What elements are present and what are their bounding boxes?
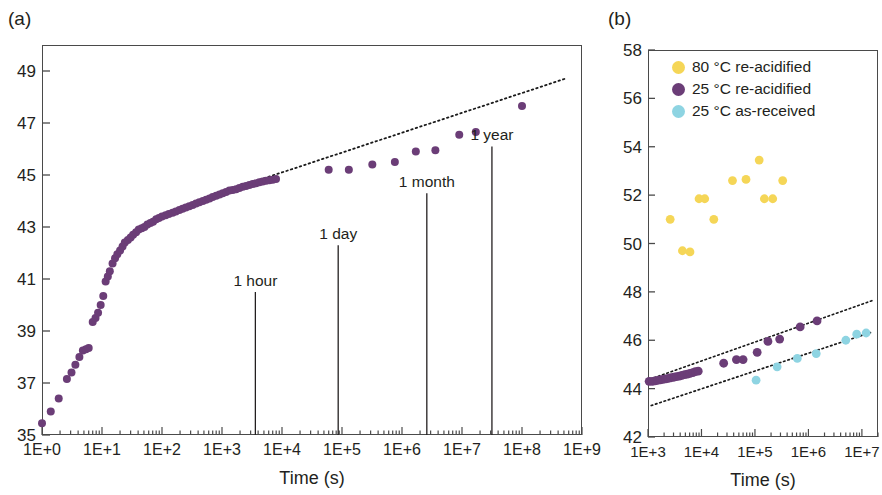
panel-a-ytick-47: 47 bbox=[0, 115, 36, 132]
panel-b-ytick-48: 48 bbox=[600, 283, 642, 300]
panel-a-ytick-43: 43 bbox=[0, 219, 36, 236]
panel-a-xtick-1E+3: 1E+3 bbox=[203, 442, 241, 458]
legend-label-1: 25 °C re-acidified bbox=[692, 81, 811, 97]
panel-a-annotation-1-hour: 1 hour bbox=[233, 272, 277, 290]
legend-swatch-icon-1 bbox=[672, 83, 685, 96]
panel-b-ytick-44: 44 bbox=[600, 380, 642, 397]
panel-b-xaxis-title: Time (s) bbox=[730, 470, 795, 491]
panel-b-legend: 80 °C re-acidified25 °C re-acidified25 °… bbox=[672, 57, 815, 121]
panel-a-ytick-39: 39 bbox=[0, 323, 36, 340]
panel-b-ytick-50: 50 bbox=[600, 235, 642, 252]
panel-a: (a) 3537394143454749 1E+01E+11E+21E+31E+… bbox=[0, 0, 600, 495]
panel-a-xtick-1E+7: 1E+7 bbox=[443, 442, 481, 458]
panel-a-xtick-1E+5: 1E+5 bbox=[323, 442, 361, 458]
panel-b-series-25-C-re-acidified bbox=[645, 317, 822, 386]
legend-swatch-icon-2 bbox=[672, 105, 685, 118]
panel-b-ytick-54: 54 bbox=[600, 138, 642, 155]
panel-b-xtick-1E+7: 1E+7 bbox=[844, 444, 879, 459]
panel-a-xaxis-title: Time (s) bbox=[279, 468, 344, 489]
panel-b: (b) 424446485052545658 1E+31E+41E+51E+61… bbox=[600, 0, 882, 495]
panel-b-series-80-C-re-acidified bbox=[666, 156, 787, 257]
panel-b-xtick-1E+6: 1E+6 bbox=[791, 444, 826, 459]
figure-root: (a) 3537394143454749 1E+01E+11E+21E+31E+… bbox=[0, 0, 882, 495]
legend-label-0: 80 °C re-acidified bbox=[692, 59, 811, 75]
panel-a-annotation-1-year: 1 year bbox=[470, 126, 513, 144]
panel-a-ytick-41: 41 bbox=[0, 271, 36, 288]
panel-a-annotation-1-month: 1 month bbox=[399, 173, 455, 191]
panel-a-xtick-1E+4: 1E+4 bbox=[263, 442, 301, 458]
panel-a-xtick-1E+1: 1E+1 bbox=[83, 442, 121, 458]
panel-b-ytick-52: 52 bbox=[600, 187, 642, 204]
panel-a-series-25-C-re-acidified bbox=[38, 102, 526, 427]
panel-b-xtick-1E+4: 1E+4 bbox=[684, 444, 719, 459]
panel-b-xtick-1E+5: 1E+5 bbox=[737, 444, 772, 459]
legend-item-1[interactable]: 25 °C re-acidified bbox=[672, 79, 815, 99]
panel-b-ytick-58: 58 bbox=[600, 42, 642, 59]
panel-a-xtick-1E+0: 1E+0 bbox=[23, 442, 61, 458]
legend-swatch-icon-0 bbox=[672, 61, 685, 74]
panel-a-ytick-45: 45 bbox=[0, 167, 36, 184]
legend-label-2: 25 °C as-received bbox=[692, 103, 815, 119]
legend-item-0[interactable]: 80 °C re-acidified bbox=[672, 57, 815, 77]
panel-b-ytick-46: 46 bbox=[600, 332, 642, 349]
panel-a-ytick-37: 37 bbox=[0, 375, 36, 392]
panel-a-annotation-1-day: 1 day bbox=[319, 225, 357, 243]
panel-a-xtick-1E+6: 1E+6 bbox=[383, 442, 421, 458]
panel-a-canvas bbox=[0, 0, 600, 495]
panel-b-xtick-1E+3: 1E+3 bbox=[630, 444, 665, 459]
panel-a-xtick-1E+9: 1E+9 bbox=[563, 442, 601, 458]
panel-a-xtick-1E+2: 1E+2 bbox=[143, 442, 181, 458]
legend-item-2[interactable]: 25 °C as-received bbox=[672, 101, 815, 121]
panel-b-ytick-56: 56 bbox=[600, 90, 642, 107]
panel-a-xtick-1E+8: 1E+8 bbox=[503, 442, 541, 458]
panel-a-ytick-49: 49 bbox=[0, 63, 36, 80]
